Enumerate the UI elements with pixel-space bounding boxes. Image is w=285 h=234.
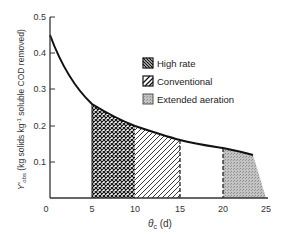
legend-label-conventional: Conventional — [157, 76, 212, 87]
legend-item-conventional: Conventional — [143, 76, 212, 87]
y-tick-0.4: 0.4 — [33, 48, 46, 58]
region-high-rate — [92, 104, 135, 198]
chart-canvas: 0.5 0.4 0.3 0.2 0.1 0 5 10 15 20 25 θc (… — [0, 0, 285, 234]
region-conventional — [135, 126, 180, 198]
x-tick-25: 25 — [261, 204, 271, 214]
y-tick-0.3: 0.3 — [33, 84, 46, 94]
x-tick-10: 10 — [130, 204, 140, 214]
legend-item-extended-aeration: Extended aeration — [143, 94, 234, 105]
legend-label-high-rate: High rate — [157, 58, 196, 69]
y-tick-0.5: 0.5 — [33, 12, 46, 22]
legend-item-high-rate: High rate — [143, 58, 196, 69]
x-tick-20: 20 — [218, 204, 228, 214]
y-tick-0.2: 0.2 — [33, 121, 46, 131]
x-tick-0: 0 — [43, 204, 48, 214]
x-tick-15: 15 — [175, 204, 185, 214]
x-tick-5: 5 — [89, 204, 94, 214]
legend-label-extended-aeration: Extended aeration — [157, 94, 234, 105]
legend: High rate Conventional Extended aeration — [143, 58, 234, 105]
y-tick-0.1: 0.1 — [33, 157, 46, 167]
x-axis-label: θc (d) — [148, 218, 172, 230]
y-axis-label: Y'obs (kg solids kg-1 soluble COD remove… — [16, 29, 27, 190]
x-axis: 0 5 10 15 20 25 — [43, 198, 271, 214]
region-extended-aeration — [223, 148, 266, 198]
stipple-swatch-icon — [143, 94, 153, 104]
